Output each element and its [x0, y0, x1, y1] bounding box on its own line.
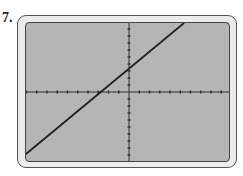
- graph-line: [26, 23, 184, 154]
- graph-screen: [25, 22, 230, 162]
- problem-number: 7.: [2, 10, 13, 26]
- graph-plot: [26, 23, 230, 162]
